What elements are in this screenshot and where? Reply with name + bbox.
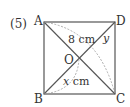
vertex-label-d: D bbox=[116, 14, 126, 28]
segment-bo-unit: cm bbox=[69, 75, 90, 88]
vertex-label-a: A bbox=[33, 14, 43, 28]
problem-number: (5) bbox=[10, 17, 27, 31]
angle-y-label: y bbox=[102, 32, 110, 45]
segment-bo-label: x cm bbox=[63, 75, 90, 88]
vertex-label-b: B bbox=[34, 92, 43, 106]
diagonal-length-label: 8 cm bbox=[68, 33, 96, 46]
vertex-label-c: C bbox=[116, 92, 125, 106]
center-label-o: O bbox=[64, 53, 74, 67]
square-diagram: (5) A D B C O 8 cm x cm y bbox=[0, 0, 130, 107]
